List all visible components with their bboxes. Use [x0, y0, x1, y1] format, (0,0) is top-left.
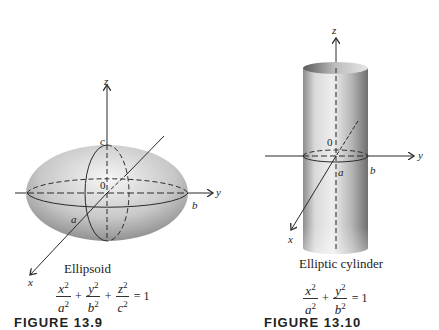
- fraction-y-over-b: y2 b2: [86, 278, 101, 316]
- cylinder-caption: Elliptic cylinder: [299, 257, 383, 270]
- ellipsoid-caption: Ellipsoid: [64, 262, 111, 275]
- cylinder-z-label: z: [332, 25, 336, 36]
- cylinder-x-label: x: [288, 234, 293, 245]
- cylinder-figure: [265, 38, 414, 254]
- fraction-z-over-c: z2 c2: [116, 278, 130, 316]
- ellipsoid-figure: [15, 85, 213, 275]
- fraction-x-over-a: x2 a2: [303, 280, 318, 318]
- cylinder-y-label: y: [418, 150, 423, 161]
- ellipsoid-origin-label: 0: [100, 180, 106, 191]
- ellipsoid-b-label: b: [192, 200, 198, 211]
- ellipsoid-z-label: z: [104, 76, 108, 87]
- cylinder-b-label: b: [370, 165, 376, 176]
- ellipsoid-c-label: c: [100, 136, 105, 147]
- cylinder-a-label: a: [338, 167, 344, 178]
- cylinder-equation: x2 a2 + y2 b2 = 1: [301, 280, 370, 318]
- ellipsoid-a-label: a: [71, 214, 77, 225]
- cylinder-figure-label: FIGURE 13.10: [264, 315, 361, 330]
- fraction-x-over-a: x2 a2: [56, 278, 71, 316]
- fraction-y-over-b: y2 b2: [333, 280, 348, 318]
- cylinder-origin-label: 0: [327, 137, 333, 148]
- ellipsoid-x-label: x: [28, 277, 33, 288]
- ellipsoid-y-label: y: [216, 187, 221, 198]
- ellipsoid-figure-label: FIGURE 13.9: [14, 315, 103, 330]
- ellipsoid-equation: x2 a2 + y2 b2 + z2 c2 = 1: [54, 278, 152, 316]
